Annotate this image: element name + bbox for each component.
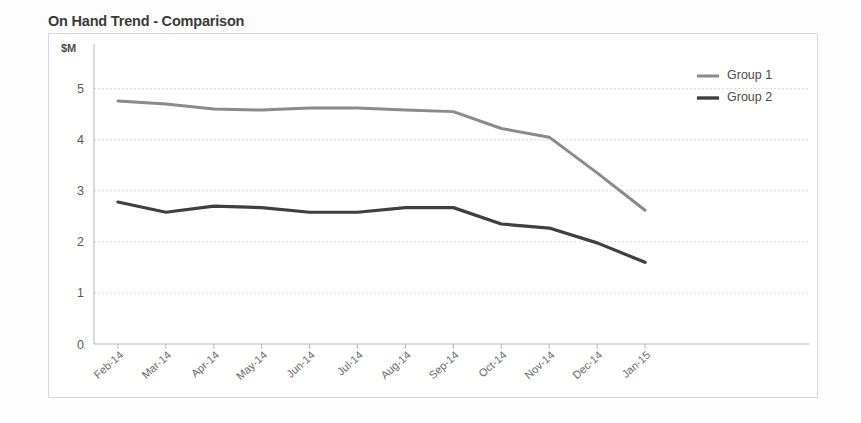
x-axis-tickmarks	[118, 344, 645, 349]
y-axis-tick-labels: 012345	[77, 82, 84, 351]
data-series-group	[118, 101, 645, 262]
line-chart: 012345 Feb-14Mar-14Apr-14May-14Jun-14Jul…	[49, 34, 817, 397]
y-axis-tick-label: 1	[77, 286, 84, 300]
x-axis-tick-label: Dec-14	[570, 349, 604, 382]
y-axis-unit-label: $M	[61, 42, 76, 54]
x-axis-tick-label: Jun-14	[284, 349, 317, 380]
chart-legend: Group 1Group 2	[697, 68, 772, 104]
series-line-2	[118, 202, 645, 262]
chart-plot-frame: 012345 Feb-14Mar-14Apr-14May-14Jun-14Jul…	[48, 33, 818, 398]
y-axis-tick-label: 3	[77, 184, 84, 198]
y-axis-tick-label: 2	[77, 235, 84, 249]
gridlines-group	[94, 89, 809, 293]
x-axis-tick-label: Oct-14	[476, 349, 509, 380]
x-axis-tick-label: Sep-14	[426, 349, 460, 382]
x-axis-tick-label: Jul-14	[335, 349, 365, 378]
page-title: On Hand Trend - Comparison	[48, 13, 244, 29]
x-axis-tick-label: Jan-15	[619, 349, 652, 380]
legend-item-1[interactable]: Group 1	[697, 68, 772, 82]
y-axis-tick-label: 0	[77, 338, 84, 352]
x-axis-tick-label: Feb-14	[91, 349, 125, 381]
x-axis-tick-label: Nov-14	[522, 349, 556, 382]
legend-item-2[interactable]: Group 2	[697, 90, 772, 104]
series-line-1	[118, 101, 645, 210]
x-axis-tick-label: Aug-14	[378, 349, 412, 382]
legend-label: Group 1	[727, 68, 772, 82]
x-axis-tick-label: Mar-14	[139, 349, 173, 381]
x-axis-tick-label: May-14	[234, 349, 269, 382]
y-axis-tick-label: 5	[77, 82, 84, 96]
y-axis-tick-label: 4	[77, 133, 84, 147]
chart-card: On Hand Trend - Comparison 012345 Feb-14…	[0, 0, 861, 423]
x-axis-tick-label: Apr-14	[189, 349, 222, 380]
x-axis-tick-labels: Feb-14Mar-14Apr-14May-14Jun-14Jul-14Aug-…	[91, 349, 652, 382]
legend-label: Group 2	[727, 90, 772, 104]
